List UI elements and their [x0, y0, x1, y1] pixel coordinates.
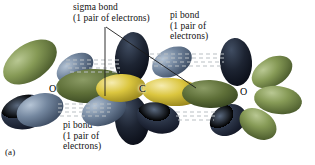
leader-sigma-diagonal — [106, 27, 196, 88]
leader-lines-group — [0, 0, 315, 165]
atom-label-oxygen-left: O — [49, 83, 56, 94]
figure-co2-orbital-diagram: O C O sigma bond (1 pair of electrons) p… — [0, 0, 315, 165]
atom-label-oxygen-right: O — [240, 86, 247, 97]
atom-label-carbon-center: C — [139, 83, 146, 94]
